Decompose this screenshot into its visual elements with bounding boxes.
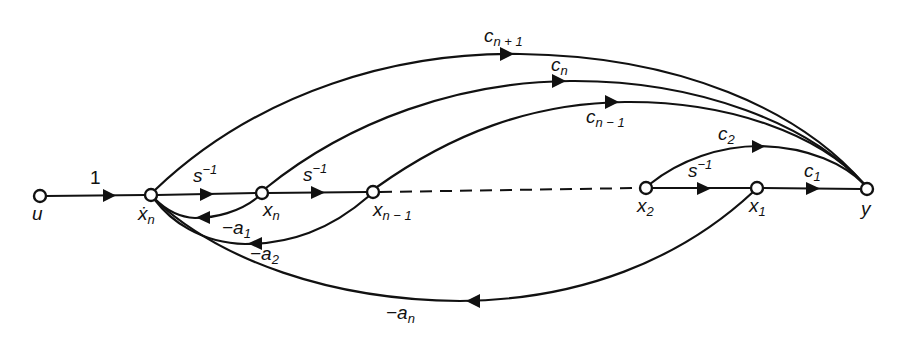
node-y [861, 183, 873, 195]
gain-label-c1: c1 [804, 160, 821, 184]
gain-label-s-inv-1: s−1 [193, 162, 217, 186]
gain-label-c2: c2 [718, 123, 736, 147]
edge-x-1-to-xdot-n-minus-an [155, 192, 753, 301]
arrow-c-2 [752, 140, 765, 153]
gain-label-c-n: cn [551, 54, 568, 78]
gain-label-minus-an: −an [386, 302, 415, 326]
node-xdot-n [145, 189, 157, 201]
node-x-n [256, 187, 268, 199]
edge-u-to-xdot-n [46, 195, 145, 196]
node-label-xdot-n: ẋn [137, 203, 155, 227]
edge-x-n-1-to-x-2-dashed [380, 188, 640, 192]
gain-label-s-inv-3: s−1 [688, 157, 712, 181]
node-label-x-n: xn [262, 199, 280, 223]
gain-label-1: 1 [90, 167, 101, 188]
gain-label-c-n-minus-1: cn − 1 [586, 106, 625, 130]
arrow-c-n-minus-1 [605, 95, 619, 109]
node-label-y: y [859, 198, 872, 219]
gain-label-minus-a1: −a1 [222, 217, 251, 241]
node-label-x-1: x1 [748, 195, 766, 219]
gain-label-c-n-plus-1: cn + 1 [484, 25, 523, 49]
arrow-u-to-xdot-n [103, 189, 116, 202]
node-label-x-2: x2 [636, 195, 655, 219]
arrow-c-n-plus-1 [500, 47, 514, 61]
arrow-minus-an [466, 294, 480, 308]
node-u [34, 190, 46, 202]
signal-flow-graph: u ẋn xn xn − 1 x2 x1 y 1 s−1 s−1 s−1 c1 … [0, 0, 898, 347]
gain-label-minus-a2: −a2 [250, 243, 280, 267]
arrow-minus-a1 [196, 211, 210, 224]
node-label-x-n-1: xn − 1 [372, 199, 412, 223]
node-x-2 [640, 182, 652, 194]
node-x-1 [751, 182, 763, 194]
arrow-x-n-to-x-n-1 [311, 186, 325, 199]
edge-x-n-to-y-c-n [266, 81, 864, 188]
gain-label-s-inv-2: s−1 [303, 161, 327, 185]
node-label-u: u [32, 203, 43, 224]
node-x-n-1 [367, 186, 379, 198]
arrow-x-2-to-x-1 [697, 182, 711, 195]
arrow-xdot-n-to-x-n [200, 188, 214, 201]
edge-x-n-1-to-xdot-n-minus-a2 [155, 196, 369, 244]
